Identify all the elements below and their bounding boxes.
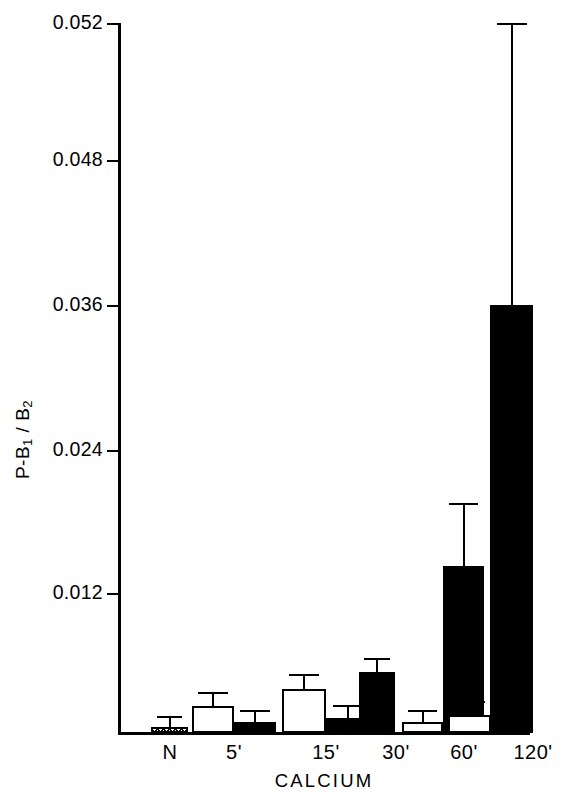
y-tick-mark xyxy=(107,23,118,25)
y-axis-title-sub2: 2 xyxy=(20,400,35,408)
bar-5-filled xyxy=(234,722,276,733)
y-tick-label: 0.012 xyxy=(0,583,103,603)
bar-5-filled-error-cap xyxy=(240,710,269,712)
bar-15-filled-error-stem xyxy=(347,707,349,718)
y-tick-label: 0.048 xyxy=(0,150,103,170)
x-tick-label: 5' xyxy=(194,742,274,762)
bar-N-stipple-error-stem xyxy=(169,718,171,728)
plot-area xyxy=(121,23,530,733)
x-axis-title: CALCIUM xyxy=(118,770,530,792)
bar-30-filled xyxy=(359,672,395,733)
bar-15-open xyxy=(282,689,326,733)
bar-120-open-error-stem xyxy=(469,703,471,715)
bar-60-filled-error-stem xyxy=(463,505,465,566)
y-axis-title-mid: / B xyxy=(12,408,33,439)
bar-5-open xyxy=(192,706,234,733)
x-tick-label: 15' xyxy=(286,742,366,762)
bar-15-open-error-cap xyxy=(289,674,319,676)
bar-120-open xyxy=(448,715,491,733)
bar-60-filled-error-cap xyxy=(449,503,478,505)
bar-N-stipple xyxy=(151,727,188,733)
bar-30-filled-error-stem xyxy=(376,660,378,672)
bar-N-stipple-error-cap xyxy=(157,716,183,718)
bar-5-open-error-cap xyxy=(198,692,227,694)
bar-120-filled-error-cap xyxy=(497,23,527,25)
y-tick-label: 0.036 xyxy=(0,295,103,315)
y-tick-mark xyxy=(107,305,118,307)
x-tick-label: 120' xyxy=(493,742,573,762)
y-tick-mark xyxy=(107,450,118,452)
y-axis-title-prefix: P-B xyxy=(12,446,33,479)
y-tick-mark xyxy=(107,593,118,595)
y-tick-mark xyxy=(107,160,118,162)
bar-120-open-error-cap xyxy=(455,701,485,703)
bar-5-open-error-stem xyxy=(212,694,214,706)
bar-chart: 0.0520.0480.0360.0240.012 P-B1 / B2 N5'1… xyxy=(0,0,579,801)
y-axis-title: P-B1 / B2 xyxy=(12,355,35,525)
bar-60-open-error-stem xyxy=(422,712,424,723)
bar-5-filled-error-stem xyxy=(254,712,256,723)
bar-120-filled-error-stem xyxy=(511,23,513,305)
bar-60-open xyxy=(402,722,443,733)
bar-60-filled xyxy=(443,566,484,733)
bar-60-open-error-cap xyxy=(408,710,437,712)
y-tick-label: 0.052 xyxy=(0,13,103,33)
y-axis-title-sub1: 1 xyxy=(20,438,35,446)
bar-15-open-error-stem xyxy=(303,676,305,689)
bar-30-filled-error-cap xyxy=(364,658,389,660)
x-tick-label: 60' xyxy=(424,742,504,762)
bar-120-filled xyxy=(490,305,533,733)
